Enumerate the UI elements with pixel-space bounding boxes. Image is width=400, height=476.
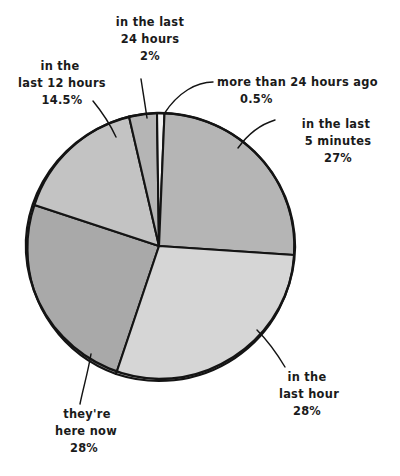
leader-line-more-than-24-hours-ago (164, 82, 213, 114)
label-in-the-last-12-hours-percent: 14.5% (41, 93, 82, 107)
label-in-the-last-24-hours-line2: 24 hours (121, 32, 180, 46)
label-in-the-last-hour: in the last hour 28% (279, 370, 339, 418)
chart-canvas: in the last 24 hours 2% in the last 12 h… (0, 0, 400, 476)
pie-slice-in-the-last-5-minutes[interactable] (159, 113, 294, 255)
label-more-than-24-hours-ago: more than 24 hours ago 0.5% (217, 75, 378, 106)
label-in-the-last-24-hours-line1: in the last (116, 15, 185, 29)
label-in-the-last-hour-percent: 28% (293, 404, 321, 418)
label-in-the-last-5-minutes-percent: 27% (324, 151, 352, 165)
label-in-the-last-24-hours: in the last 24 hours 2% (116, 15, 185, 63)
label-theyre-here-now-line1: they're (63, 407, 111, 421)
leader-line-in-the-last-24-hours (141, 79, 147, 118)
label-more-than-24-hours-ago-line1: more than 24 hours ago (217, 75, 378, 89)
label-in-the-last-12-hours-line2: last 12 hours (18, 76, 106, 90)
label-theyre-here-now-line2: here now (55, 424, 117, 438)
label-in-the-last-24-hours-percent: 2% (140, 49, 160, 63)
label-in-the-last-5-minutes: in the last 5 minutes 27% (302, 117, 371, 165)
leader-line-theyre-here-now (80, 354, 91, 404)
label-in-the-last-5-minutes-line2: 5 minutes (305, 134, 372, 148)
label-more-than-24-hours-ago-percent: 0.5% (240, 92, 273, 106)
label-in-the-last-12-hours-line1: in the (40, 59, 79, 73)
label-in-the-last-hour-line2: last hour (279, 387, 339, 401)
label-theyre-here-now-percent: 28% (70, 441, 98, 455)
label-in-the-last-hour-line1: in the (287, 370, 326, 384)
label-theyre-here-now: they're here now 28% (55, 407, 117, 455)
label-in-the-last-12-hours: in the last 12 hours 14.5% (18, 59, 106, 107)
pie-chart: in the last 24 hours 2% in the last 12 h… (0, 0, 400, 476)
label-in-the-last-5-minutes-line1: in the last (302, 117, 371, 131)
